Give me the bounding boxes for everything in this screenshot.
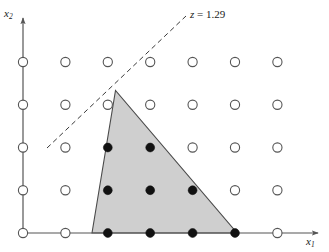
- lattice-point-open: [188, 143, 197, 152]
- lattice-point-filled: [103, 186, 112, 195]
- lattice-point-open: [230, 57, 239, 66]
- lattice-point-open: [61, 100, 70, 109]
- lattice-point-open: [18, 228, 27, 237]
- lattice-point-open: [103, 57, 112, 66]
- lattice-point-filled: [146, 229, 155, 238]
- lattice-point-open: [273, 100, 282, 109]
- lattice-point-open: [273, 57, 282, 66]
- lattice-point-open: [18, 143, 27, 152]
- lattice-point-open: [61, 57, 70, 66]
- lattice-point-open: [188, 100, 197, 109]
- lattice-point-filled: [146, 186, 155, 195]
- lattice-point-filled: [188, 186, 197, 195]
- y-axis-label-subscript: 2: [9, 12, 13, 21]
- lattice-point-open: [273, 143, 282, 152]
- lattice-point-filled: [231, 229, 240, 238]
- lattice-point-open: [188, 57, 197, 66]
- lattice-point-open: [230, 143, 239, 152]
- feasible-region: [92, 91, 237, 234]
- plot-canvas: [0, 0, 329, 252]
- lattice-point-filled: [146, 143, 155, 152]
- lattice-point-filled: [103, 143, 112, 152]
- lattice-point-open: [273, 228, 282, 237]
- objective-line-label-value: = 1.29: [194, 8, 225, 20]
- lattice-point-filled: [188, 229, 197, 238]
- lattice-point-filled: [103, 229, 112, 238]
- figure-container: x2 x1 z = 1.29: [0, 0, 329, 252]
- y-axis-label: x2: [4, 8, 13, 19]
- lattice-point-open: [146, 57, 155, 66]
- lattice-point-open: [61, 143, 70, 152]
- lattice-point-open: [230, 100, 239, 109]
- lattice-point-open: [18, 57, 27, 66]
- lattice-point-open: [18, 186, 27, 195]
- x-axis-label-subscript: 1: [311, 240, 315, 249]
- lattice-point-open: [61, 186, 70, 195]
- lattice-point-open: [146, 100, 155, 109]
- objective-line-label: z = 1.29: [190, 9, 225, 20]
- lattice-point-open: [103, 100, 112, 109]
- lattice-point-open: [61, 228, 70, 237]
- x-axis-label: x1: [306, 236, 315, 247]
- feasible-region-polygon: [92, 91, 237, 234]
- lattice-point-open: [230, 186, 239, 195]
- lattice-point-open: [273, 186, 282, 195]
- lattice-point-open: [18, 100, 27, 109]
